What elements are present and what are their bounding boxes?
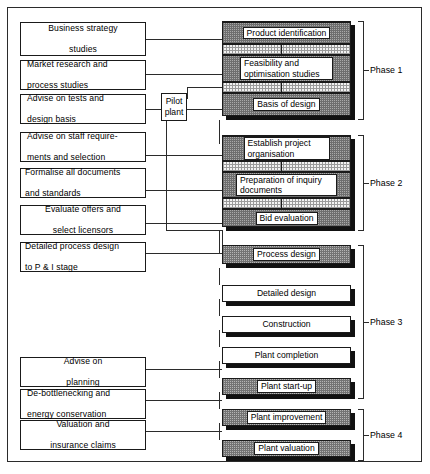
box-body: Plant completion	[222, 347, 351, 364]
connector-pilot-to-basis	[187, 109, 222, 110]
connector-pilot-trunk-right	[166, 230, 222, 231]
step-label: Bid evaluation	[256, 212, 318, 224]
box-body: Detailed design	[222, 285, 351, 302]
step-plant-completion[interactable]: Plant completion	[222, 347, 355, 368]
separator-band-4	[223, 198, 350, 209]
connector-formalise-documents	[146, 190, 222, 191]
left-box-line1: Advise on tests and	[27, 93, 104, 104]
step-label: Preparation of inquirydocuments	[236, 174, 337, 196]
separator-split	[281, 162, 282, 171]
step-label: Process design	[253, 248, 320, 260]
left-box-line1: Advise on	[64, 356, 103, 367]
spine-completion-to-startup	[219, 361, 220, 378]
box-body: Plant start-up	[222, 378, 351, 395]
left-box-line1: Formalise all documents	[25, 167, 120, 178]
left-box-line1: Business strategy	[48, 23, 118, 34]
phase-1-tick	[364, 70, 369, 71]
left-box-line1: Valuation and	[50, 419, 116, 430]
connector-advise-planning	[146, 369, 222, 370]
left-box-market-research[interactable]: Market research andprocess studies	[20, 60, 146, 90]
step-label: Basis of design	[253, 98, 319, 110]
phase-4-label: Phase 4	[370, 430, 402, 440]
phase-2-group-body: Establish projectorganisation Preparatio…	[222, 135, 351, 227]
left-box-line2: and standards	[25, 188, 120, 199]
left-box-line2: ments and selection	[27, 152, 118, 163]
separator-split	[281, 45, 282, 54]
left-box-line2: process studies	[27, 80, 108, 91]
connector-advise-staff	[146, 155, 222, 156]
step-bid-evaluation[interactable]: Bid evaluation	[223, 209, 350, 227]
step-product-identification[interactable]: Product identification	[223, 22, 350, 44]
step-construction[interactable]: Construction	[222, 316, 355, 337]
connector-advise-tests-to-pilot	[146, 109, 161, 110]
pilot-plant-line2: plant	[165, 107, 184, 117]
left-box-line2: studies	[48, 44, 118, 55]
step-label: Detailed design	[257, 288, 316, 298]
separator-split	[281, 83, 282, 92]
left-box-advise-planning[interactable]: Advise onplanning	[20, 357, 146, 387]
left-box-line1: Advise on staff require-	[27, 131, 118, 142]
phase-2-label: Phase 2	[370, 178, 402, 188]
left-box-advise-staff[interactable]: Advise on staff require-ments and select…	[20, 132, 146, 162]
step-label: Plant improvement	[247, 411, 327, 423]
phase-1-label: Phase 1	[370, 65, 402, 75]
step-basis-of-design[interactable]: Basis of design	[223, 93, 350, 116]
left-box-line2: design basis	[27, 114, 104, 125]
left-box-line2: insurance claims	[50, 440, 116, 451]
step-label: Plant completion	[255, 350, 319, 360]
phase-2-group: Establish projectorganisation Preparatio…	[222, 135, 355, 231]
separator-band-2	[223, 82, 350, 93]
spine-startup-to-improvement	[219, 392, 220, 409]
phase-1-group-body: Product identification Feasibility andop…	[222, 21, 351, 116]
step-detailed-design[interactable]: Detailed design	[222, 285, 355, 306]
left-box-line2: to P & I stage	[25, 262, 119, 273]
step-plant-start-up[interactable]: Plant start-up	[222, 378, 355, 399]
separator-split	[281, 199, 282, 208]
step-preparation-inquiry-documents[interactable]: Preparation of inquirydocuments	[223, 172, 350, 198]
spine-improvement-to-valuation	[219, 423, 220, 440]
left-box-business-strategy[interactable]: Business strategystudies	[20, 22, 146, 56]
box-body: Plant improvement	[222, 409, 351, 426]
connector-valuation-claims	[146, 431, 222, 432]
left-box-advise-tests[interactable]: Advise on tests anddesign basis	[20, 94, 146, 124]
left-box-formalise-documents[interactable]: Formalise all documentsand standards	[20, 168, 146, 198]
connector-detailed-process-design	[146, 253, 222, 254]
separator-band-3	[223, 161, 350, 172]
step-process-design[interactable]: Process design	[222, 245, 355, 268]
step-label: Construction	[262, 319, 310, 329]
phase-4-tick	[364, 435, 369, 436]
box-body: Process design	[222, 245, 351, 264]
connector-business-strategy	[146, 39, 222, 40]
spine-phase2-to-process-design	[219, 231, 220, 253]
left-box-evaluate-offers[interactable]: Evaluate offers andselect licensors	[20, 205, 146, 235]
step-feasibility-optimisation[interactable]: Feasibility andoptimisation studies	[223, 55, 350, 82]
phase-3-label: Phase 3	[370, 317, 402, 327]
connector-debottlenecking	[146, 400, 222, 401]
box-body: Plant valuation	[222, 440, 351, 457]
left-box-line1: De-bottlenecking and	[27, 388, 110, 399]
separator-band-1	[223, 44, 350, 55]
left-box-line1: Evaluate offers and	[45, 204, 121, 215]
pilot-plant-box[interactable]: Pilotplant	[161, 93, 187, 121]
spine-process-to-detailed	[219, 268, 220, 285]
pilot-plant-line1: Pilot	[166, 96, 183, 106]
left-box-debottlenecking[interactable]: De-bottlenecking andenergy conservation	[20, 389, 146, 419]
phase-3-tick	[364, 322, 369, 323]
step-plant-improvement[interactable]: Plant improvement	[222, 409, 355, 430]
spine-phase1-to-phase2	[219, 120, 220, 144]
left-box-detailed-process-design[interactable]: Detailed process designto P & I stage	[20, 242, 146, 272]
left-box-valuation-claims[interactable]: Valuation andinsurance claims	[20, 420, 146, 450]
step-label: Establish projectorganisation	[244, 137, 330, 159]
left-box-line2: planning	[64, 377, 103, 388]
left-box-line1: Detailed process design	[25, 241, 119, 252]
left-box-line1: Market research and	[27, 59, 108, 70]
step-label: Product identification	[243, 27, 331, 39]
phase-1-group: Product identification Feasibility andop…	[222, 21, 355, 120]
connector-evaluate-offers	[146, 223, 222, 224]
step-label: Feasibility andoptimisation studies	[240, 57, 333, 79]
phase-2-tick	[364, 183, 369, 184]
left-box-line2: select licensors	[45, 225, 121, 236]
spine-detailed-to-construction	[219, 299, 220, 316]
step-plant-valuation[interactable]: Plant valuation	[222, 440, 355, 461]
step-establish-project-organisation[interactable]: Establish projectorganisation	[223, 136, 350, 161]
